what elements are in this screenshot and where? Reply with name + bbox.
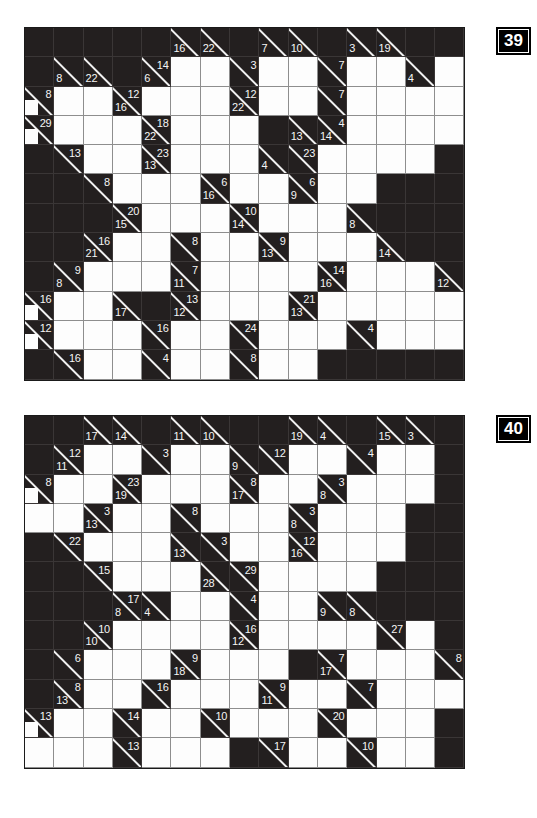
- answer-cell[interactable]: [318, 533, 347, 562]
- answer-cell[interactable]: [289, 233, 318, 262]
- answer-cell[interactable]: [230, 292, 259, 321]
- answer-cell[interactable]: [54, 87, 83, 116]
- answer-cell[interactable]: [289, 262, 318, 291]
- answer-cell[interactable]: [406, 650, 435, 679]
- answer-cell[interactable]: [289, 621, 318, 650]
- answer-cell[interactable]: [377, 650, 406, 679]
- answer-cell[interactable]: [377, 87, 406, 116]
- answer-cell[interactable]: [318, 233, 347, 262]
- answer-cell[interactable]: [406, 116, 435, 145]
- answer-cell[interactable]: [377, 57, 406, 86]
- answer-cell[interactable]: [113, 680, 142, 709]
- answer-cell[interactable]: [113, 262, 142, 291]
- answer-cell[interactable]: [142, 709, 171, 738]
- answer-cell[interactable]: [54, 292, 83, 321]
- answer-cell[interactable]: [435, 116, 464, 145]
- answer-cell[interactable]: [435, 292, 464, 321]
- answer-cell[interactable]: [406, 262, 435, 291]
- answer-cell[interactable]: [406, 445, 435, 474]
- answer-cell[interactable]: [347, 650, 376, 679]
- answer-cell[interactable]: [406, 145, 435, 174]
- answer-cell[interactable]: [113, 445, 142, 474]
- answer-cell[interactable]: [406, 87, 435, 116]
- answer-cell[interactable]: [230, 533, 259, 562]
- answer-cell[interactable]: [347, 116, 376, 145]
- answer-cell[interactable]: [289, 350, 318, 379]
- answer-cell[interactable]: [406, 621, 435, 650]
- answer-cell[interactable]: [113, 321, 142, 350]
- answer-cell[interactable]: [84, 116, 113, 145]
- answer-cell[interactable]: [54, 321, 83, 350]
- answer-cell[interactable]: [84, 87, 113, 116]
- answer-cell[interactable]: [201, 87, 230, 116]
- answer-cell[interactable]: [230, 116, 259, 145]
- answer-cell[interactable]: [347, 709, 376, 738]
- answer-cell[interactable]: [84, 709, 113, 738]
- answer-cell[interactable]: [259, 174, 288, 203]
- answer-cell[interactable]: [113, 116, 142, 145]
- answer-cell[interactable]: [201, 204, 230, 233]
- answer-cell[interactable]: [171, 174, 200, 203]
- answer-cell[interactable]: [377, 292, 406, 321]
- answer-cell[interactable]: [142, 174, 171, 203]
- answer-cell[interactable]: [113, 533, 142, 562]
- answer-cell[interactable]: [230, 709, 259, 738]
- answer-cell[interactable]: [142, 204, 171, 233]
- answer-cell[interactable]: [377, 504, 406, 533]
- answer-cell[interactable]: [201, 592, 230, 621]
- answer-cell[interactable]: [406, 475, 435, 504]
- answer-cell[interactable]: [84, 650, 113, 679]
- answer-cell[interactable]: [171, 57, 200, 86]
- answer-cell[interactable]: [259, 504, 288, 533]
- answer-cell[interactable]: [113, 504, 142, 533]
- answer-cell[interactable]: [142, 738, 171, 767]
- answer-cell[interactable]: [259, 650, 288, 679]
- answer-cell[interactable]: [289, 562, 318, 591]
- answer-cell[interactable]: [201, 321, 230, 350]
- answer-cell[interactable]: [406, 738, 435, 767]
- answer-cell[interactable]: [54, 709, 83, 738]
- answer-cell[interactable]: [377, 445, 406, 474]
- answer-cell[interactable]: [259, 204, 288, 233]
- answer-cell[interactable]: [406, 709, 435, 738]
- answer-cell[interactable]: [377, 321, 406, 350]
- answer-cell[interactable]: [318, 321, 347, 350]
- answer-cell[interactable]: [435, 680, 464, 709]
- answer-cell[interactable]: [377, 533, 406, 562]
- answer-cell[interactable]: [318, 680, 347, 709]
- answer-cell[interactable]: [377, 680, 406, 709]
- answer-cell[interactable]: [259, 533, 288, 562]
- answer-cell[interactable]: [171, 350, 200, 379]
- answer-cell[interactable]: [201, 57, 230, 86]
- answer-cell[interactable]: [406, 321, 435, 350]
- answer-cell[interactable]: [113, 650, 142, 679]
- answer-cell[interactable]: [113, 562, 142, 591]
- answer-cell[interactable]: [113, 350, 142, 379]
- answer-cell[interactable]: [201, 475, 230, 504]
- answer-cell[interactable]: [201, 504, 230, 533]
- answer-cell[interactable]: [289, 57, 318, 86]
- answer-cell[interactable]: [347, 233, 376, 262]
- answer-cell[interactable]: [54, 116, 83, 145]
- answer-cell[interactable]: [230, 680, 259, 709]
- answer-cell[interactable]: [84, 262, 113, 291]
- answer-cell[interactable]: [377, 262, 406, 291]
- answer-cell[interactable]: [347, 87, 376, 116]
- answer-cell[interactable]: [171, 87, 200, 116]
- answer-cell[interactable]: [289, 204, 318, 233]
- answer-cell[interactable]: [171, 145, 200, 174]
- answer-cell[interactable]: [318, 562, 347, 591]
- answer-cell[interactable]: [142, 233, 171, 262]
- answer-cell[interactable]: [142, 621, 171, 650]
- kakuro-grid-39[interactable]: 1622710319822146374812161222729182213414…: [24, 27, 465, 381]
- answer-cell[interactable]: [201, 621, 230, 650]
- answer-cell[interactable]: [347, 57, 376, 86]
- answer-cell[interactable]: [347, 262, 376, 291]
- answer-cell[interactable]: [201, 650, 230, 679]
- answer-cell[interactable]: [142, 504, 171, 533]
- answer-cell[interactable]: [201, 350, 230, 379]
- answer-cell[interactable]: [406, 680, 435, 709]
- answer-cell[interactable]: [259, 321, 288, 350]
- answer-cell[interactable]: [113, 233, 142, 262]
- answer-cell[interactable]: [347, 292, 376, 321]
